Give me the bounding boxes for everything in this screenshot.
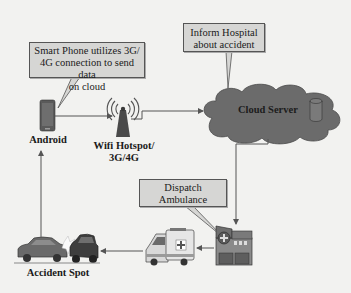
hospital-icon xyxy=(216,226,252,265)
wifi-label-line-1: Wifi Hotspot/ xyxy=(92,140,156,152)
arrow-wifi-to-cloud xyxy=(131,111,203,119)
wifi-tower-icon xyxy=(107,98,139,137)
hospital-callout-pointer xyxy=(226,51,232,88)
smartphone-callout-line-3: on cloud xyxy=(30,81,144,93)
diagram-canvas: Smart Phone utilizes 3G/ 4G connection t… xyxy=(0,0,351,293)
smartphone-callout-line-1: Smart Phone utilizes 3G/ xyxy=(30,45,144,57)
car-crash-icon xyxy=(14,234,100,263)
arrow-cloud-to-hospital xyxy=(236,139,268,224)
wifi-label-line-2: 3G/4G xyxy=(92,152,156,164)
dispatch-callout-line-2: Ambulance xyxy=(140,194,226,206)
smartphone-icon xyxy=(40,100,55,131)
cloud-server-label: Cloud Server xyxy=(238,104,298,115)
wifi-label: Wifi Hotspot/ 3G/4G xyxy=(92,140,156,164)
ambulance-icon xyxy=(146,228,194,266)
dispatch-callout: Dispatch Ambulance xyxy=(139,179,227,207)
hospital-callout-line-2: about accident xyxy=(184,39,264,51)
android-label: Android xyxy=(28,134,68,146)
database-icon xyxy=(310,99,322,122)
hospital-callout-line-1: Inform Hospital xyxy=(184,27,264,39)
hospital-callout: Inform Hospital about accident xyxy=(183,23,265,52)
smartphone-callout: Smart Phone utilizes 3G/ 4G connection t… xyxy=(29,42,145,78)
accident-spot-label: Accident Spot xyxy=(22,267,94,279)
dispatch-callout-line-1: Dispatch xyxy=(140,182,226,194)
smartphone-callout-line-2: 4G connection to send data xyxy=(30,57,144,81)
